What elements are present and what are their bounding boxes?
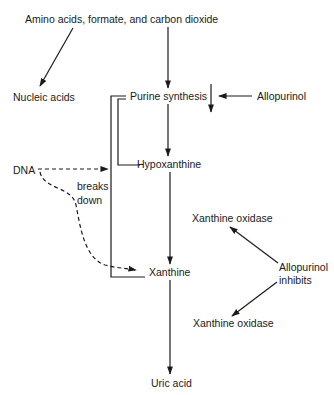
bracket-outer [111, 96, 145, 277]
label-down: down [77, 194, 102, 206]
node-xanthine-oxidase-top: Xanthine oxidase [192, 212, 273, 224]
arrow-inhibits-to-xo-top [230, 227, 278, 263]
node-allopurinol-inhibits-1: Allopurinol [279, 261, 328, 273]
node-allopurinol: Allopurinol [257, 90, 306, 102]
node-hypoxanthine: Hypoxanthine [137, 158, 201, 170]
node-allopurinol-inhibits-2: inhibits [279, 274, 312, 286]
label-breaks: breaks [77, 180, 109, 192]
arrow-sources-to-nucleic-acids [40, 28, 73, 86]
node-xanthine: Xanthine [149, 266, 190, 278]
node-xanthine-oxidase-bottom: Xanthine oxidase [193, 317, 274, 329]
bracket-inner [118, 99, 140, 165]
diagram-canvas [0, 0, 334, 395]
node-sources: Amino acids, formate, and carbon dioxide [25, 13, 218, 25]
node-purine-synthesis: Purine synthesis [130, 90, 207, 102]
node-dna: DNA [13, 164, 35, 176]
node-uric-acid: Uric acid [151, 377, 192, 389]
node-nucleic-acids: Nucleic acids [13, 91, 75, 103]
arrow-inhibits-to-xo-bottom [232, 282, 277, 316]
